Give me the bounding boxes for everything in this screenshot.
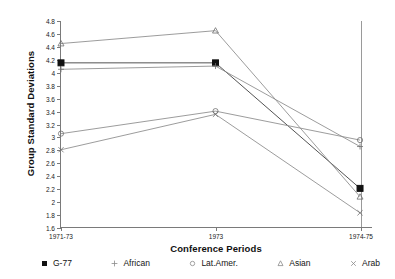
legend-item-asian[interactable]: Asian [276, 258, 310, 268]
y-axis-tick-label: 4.4 [46, 43, 55, 50]
line-chart: Group Standard Deviations 4.84.64.44.243… [0, 0, 395, 279]
y-axis-tick-label: 3.6 [46, 95, 55, 102]
open-circle-marker [188, 259, 197, 268]
x-axis-tick-label: 1974-75 [349, 233, 373, 240]
y-axis-tick-label: 3 [51, 134, 55, 141]
y-axis-tick-label: 1.8 [46, 212, 55, 219]
plot-inner: 4.84.64.44.243.83.63.43.232.82.62.42.221… [61, 21, 372, 227]
legend-item-label: Arab [362, 258, 380, 268]
legend-item-arab[interactable]: Arab [349, 258, 380, 268]
chart-legend: G-77AfricanLat.Amer.AsianArab [40, 255, 380, 271]
y-axis-title: Group Standard Deviations [25, 14, 36, 214]
series-g-77 [58, 60, 363, 192]
y-axis-tick-label: 1.6 [46, 225, 55, 232]
y-axis-tick-label: 2.4 [46, 173, 55, 180]
y-axis-tick-label: 4.6 [46, 30, 55, 37]
legend-item-lat-amer[interactable]: Lat.Amer. [188, 258, 237, 268]
x-axis-title: Conference Periods [60, 243, 372, 254]
y-axis-tick-label: 3.2 [46, 121, 55, 128]
filled-square-marker [40, 259, 49, 268]
y-axis-tick-label: 3.8 [46, 82, 55, 89]
cross-marker [349, 259, 358, 268]
open-triangle-marker [276, 259, 285, 268]
plus-marker [110, 259, 119, 268]
plus-marker [58, 66, 64, 72]
x-axis-tick-label: 1973 [209, 233, 223, 240]
series-african [58, 63, 363, 149]
plus-marker [357, 144, 363, 150]
x-axis-tick-label: 1971-73 [49, 233, 73, 240]
y-axis-tick-label: 2.6 [46, 160, 55, 167]
cross-marker [357, 210, 362, 215]
series-asian [58, 28, 363, 199]
series-lat-amer [58, 109, 362, 143]
legend-item-label: African [123, 258, 149, 268]
y-axis-tick-label: 2.8 [46, 147, 55, 154]
plot-area: 4.84.64.44.243.83.63.43.232.82.62.42.221… [60, 21, 372, 228]
legend-item-african[interactable]: African [110, 258, 149, 268]
series-overlay [61, 21, 372, 227]
y-axis-tick-label: 4.8 [46, 18, 55, 25]
legend-item-g-77[interactable]: G-77 [40, 258, 72, 268]
legend-item-label: Asian [289, 258, 310, 268]
filled-square-marker [58, 60, 64, 66]
legend-item-label: G-77 [53, 258, 72, 268]
y-axis-tick-label: 3.4 [46, 108, 55, 115]
y-axis-tick-label: 4 [51, 69, 55, 76]
y-axis-tick-label: 4.2 [46, 56, 55, 63]
filled-square-marker [357, 185, 363, 191]
y-axis-tick-label: 2.2 [46, 186, 55, 193]
x-axis-tick-mark [61, 227, 62, 231]
x-axis-tick-mark [361, 227, 362, 231]
legend-item-label: Lat.Amer. [201, 258, 237, 268]
y-axis-tick-label: 2 [51, 199, 55, 206]
x-axis-tick-mark [216, 227, 217, 231]
